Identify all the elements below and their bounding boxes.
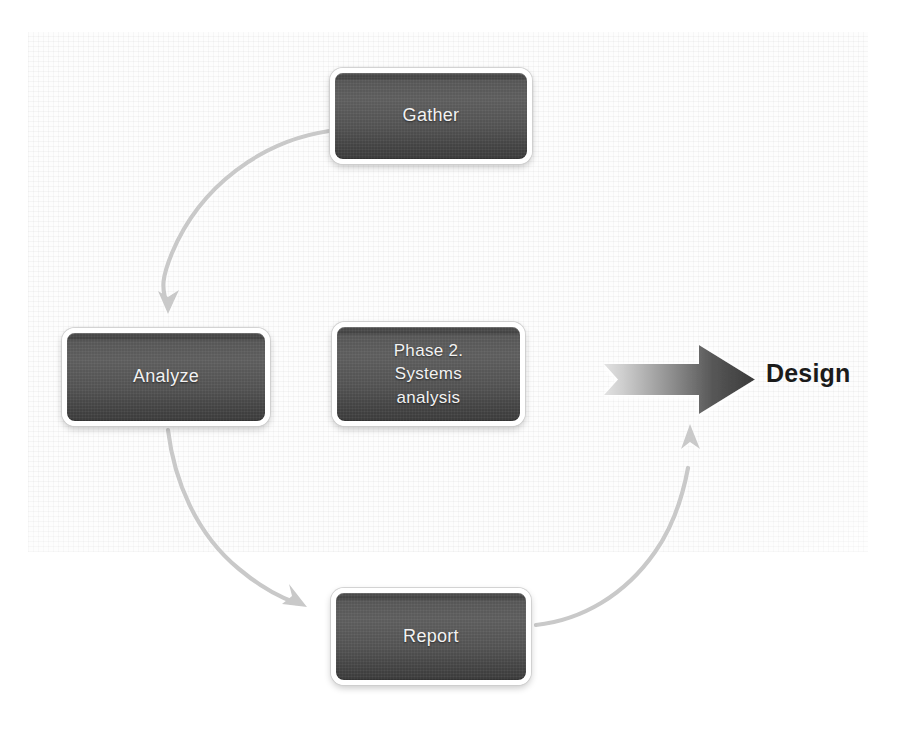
- connector-report-to-design: [536, 424, 700, 625]
- process-node-phase-2-systems-analysis[interactable]: Phase 2. Systems analysis: [332, 322, 525, 426]
- connector-analyze-to-report: [168, 430, 307, 607]
- connector-gather-to-analyze: [158, 131, 329, 314]
- design-caption: Design: [766, 359, 851, 388]
- design-block-arrow: [604, 345, 755, 414]
- node-label-phase: Phase 2. Systems analysis: [394, 339, 464, 409]
- process-node-report[interactable]: Report: [331, 588, 531, 685]
- node-label-report: Report: [403, 625, 459, 649]
- process-node-analyze[interactable]: Analyze: [62, 328, 270, 426]
- node-label-gather: Gather: [403, 104, 460, 128]
- diagram-canvas: Gather Analyze Phase 2. Systems analysis…: [0, 0, 905, 730]
- process-node-gather[interactable]: Gather: [330, 68, 532, 164]
- node-label-analyze: Analyze: [133, 365, 199, 389]
